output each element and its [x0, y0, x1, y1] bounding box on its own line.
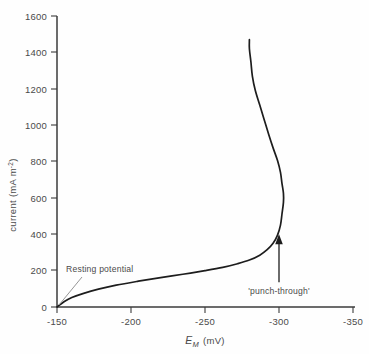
x-tick-label: -350: [343, 316, 363, 327]
y-tick-label: 600: [31, 193, 47, 204]
y-axis-title: current (mA m-2): [7, 158, 19, 231]
punch-through-label: 'punch-through': [248, 286, 310, 296]
y-tick-label: 400: [31, 229, 47, 240]
x-tick-label: -150: [47, 316, 67, 327]
y-tick-label: 200: [31, 265, 47, 276]
y-tick-label: 0: [42, 302, 47, 313]
resting-potential-label: Resting potential: [66, 264, 133, 274]
x-axis-title-units: (mV): [203, 335, 225, 346]
x-tick-label: -250: [195, 316, 215, 327]
y-tick-label: 800: [31, 156, 47, 167]
y-axis-title-text: current (mA m: [7, 168, 18, 232]
x-axis-title-subscript: M: [192, 340, 199, 349]
y-tick-label: 1600: [25, 11, 47, 22]
chart-figure: 1600 1400 1200 1000 800 600 400 200 0 -1…: [0, 0, 369, 354]
iv-curve-chart: 1600 1400 1200 1000 800 600 400 200 0 -1…: [0, 0, 369, 354]
y-tick-label: 1400: [25, 47, 47, 58]
chart-background: [0, 0, 369, 354]
x-tick-label: -300: [269, 316, 289, 327]
y-tick-label: 1000: [25, 120, 47, 131]
x-tick-label: -200: [121, 316, 141, 327]
y-tick-label: 1200: [25, 84, 47, 95]
y-axis-title-close: ): [7, 158, 18, 161]
